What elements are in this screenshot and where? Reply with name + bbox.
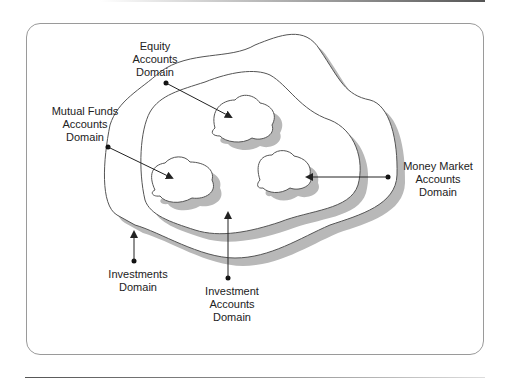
label-investment-accounts-domain: Investment Accounts Domain: [192, 285, 272, 324]
label-investments-domain: Investments Domain: [98, 268, 178, 294]
leader-line-investments: [132, 232, 137, 264]
label-money-market-accounts-domain: Money Market Accounts Domain: [393, 160, 483, 199]
label-mutual-funds-accounts-domain: Mutual Funds Accounts Domain: [40, 105, 130, 144]
bottom-rule: [25, 377, 485, 378]
label-equity-accounts-domain: Equity Accounts Domain: [117, 40, 193, 79]
